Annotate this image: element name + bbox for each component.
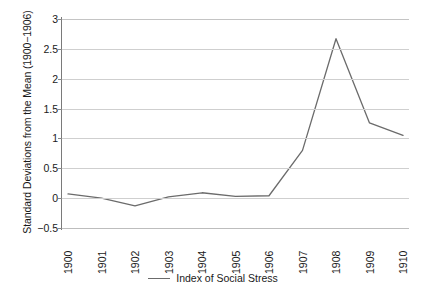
x-tick-label-1904: 1904 bbox=[195, 234, 209, 274]
x-tick-label-1908: 1908 bbox=[329, 234, 343, 274]
y-tick-mark bbox=[58, 19, 62, 20]
x-tick-label-text: 1908 bbox=[330, 234, 342, 274]
gridline bbox=[62, 19, 409, 20]
y-tick-mark bbox=[58, 198, 62, 199]
x-tick-label-text: 1909 bbox=[364, 234, 376, 274]
y-tick-label: −0.5 bbox=[24, 223, 58, 233]
x-tick-label-1901: 1901 bbox=[95, 234, 109, 274]
y-tick-label: 1 bbox=[24, 133, 58, 143]
x-tick-label-text: 1903 bbox=[163, 234, 175, 274]
gridline bbox=[62, 49, 409, 50]
y-tick-mark bbox=[58, 228, 62, 229]
chart-legend: Index of Social Stress bbox=[0, 272, 426, 284]
x-tick-label-text: 1902 bbox=[129, 234, 141, 274]
x-tick-label-text: 1904 bbox=[196, 234, 208, 274]
y-axis-ticks: 32.521.510.50−0.5 bbox=[20, 0, 58, 292]
y-tick-mark bbox=[58, 109, 62, 110]
plot-area bbox=[62, 19, 409, 228]
gridline bbox=[62, 198, 409, 199]
x-tick-label-text: 1905 bbox=[230, 234, 242, 274]
line-chart: Standard Deviations from the Mean (1900−… bbox=[0, 0, 426, 292]
y-tick-mark bbox=[58, 168, 62, 169]
legend-label-index-of-social-stress: Index of Social Stress bbox=[176, 272, 278, 284]
legend-line-swatch bbox=[148, 278, 170, 279]
gridline bbox=[62, 168, 409, 169]
y-tick-mark bbox=[58, 138, 62, 139]
x-tick-label-text: 1910 bbox=[397, 234, 409, 274]
series-index-of-social-stress bbox=[62, 19, 409, 228]
y-tick-label: 0 bbox=[24, 193, 58, 203]
x-tick-label-1902: 1902 bbox=[128, 234, 142, 274]
x-tick-label-text: 1906 bbox=[263, 234, 275, 274]
gridline bbox=[62, 79, 409, 80]
x-tick-label-1909: 1909 bbox=[363, 234, 377, 274]
x-tick-label-text: 1901 bbox=[96, 234, 108, 274]
y-tick-label: 0.5 bbox=[24, 163, 58, 173]
x-tick-label-text: 1907 bbox=[297, 234, 309, 274]
gridline bbox=[62, 109, 409, 110]
y-tick-label: 2.5 bbox=[24, 44, 58, 54]
x-tick-label-1905: 1905 bbox=[229, 234, 243, 274]
x-tick-label-text: 1900 bbox=[62, 234, 74, 274]
y-tick-label: 3 bbox=[24, 14, 58, 24]
y-tick-label: 1.5 bbox=[24, 104, 58, 114]
y-tick-label: 2 bbox=[24, 74, 58, 84]
gridline bbox=[62, 138, 409, 139]
x-tick-label-1910: 1910 bbox=[396, 234, 410, 274]
x-tick-label-1907: 1907 bbox=[296, 234, 310, 274]
x-tick-label-1900: 1900 bbox=[61, 234, 75, 274]
x-tick-label-1906: 1906 bbox=[262, 234, 276, 274]
y-tick-mark bbox=[58, 49, 62, 50]
gridline bbox=[62, 228, 409, 229]
y-tick-mark bbox=[58, 79, 62, 80]
series-line bbox=[68, 39, 403, 206]
x-tick-label-1903: 1903 bbox=[162, 234, 176, 274]
